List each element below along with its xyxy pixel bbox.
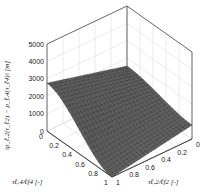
x-tick-label: 0 — [39, 133, 43, 140]
y-tick-label: 0.2 — [177, 149, 187, 156]
z-tick-label: 4000 — [28, 58, 44, 65]
z-tick-label: 5000 — [28, 41, 44, 48]
x-tick-label: 0.2 — [49, 142, 59, 149]
y-tick-label: 0 — [196, 141, 200, 148]
x-tick-label: 0.6 — [75, 161, 85, 168]
y-tick-label: 0.6 — [145, 164, 155, 171]
x-tick-label: 0.8 — [88, 170, 98, 177]
surface-plot: 01000200030004000500000.20.40.60.8100.20… — [0, 0, 209, 196]
x-tick-label: 0.4 — [62, 151, 72, 158]
y-tick-label: 1 — [116, 179, 120, 186]
y-tick-label: 0.8 — [129, 171, 139, 178]
z-tick-label: 3000 — [28, 75, 44, 82]
z-tick-label: 1000 — [28, 110, 44, 117]
x-axis-label: τℓ,4/ℓf4 [-] — [12, 178, 43, 186]
z-tick-label: 2000 — [28, 93, 44, 100]
z-axis-label: ‖p_ℓ,2(τ_ℓ2) − p_ℓ,4(τ_ℓ4)‖ [m] — [3, 61, 11, 150]
y-axis-label: τℓ,2/ℓf2 [-] — [148, 178, 179, 186]
x-tick-label: 1 — [104, 179, 108, 186]
y-tick-label: 0.4 — [161, 156, 171, 163]
